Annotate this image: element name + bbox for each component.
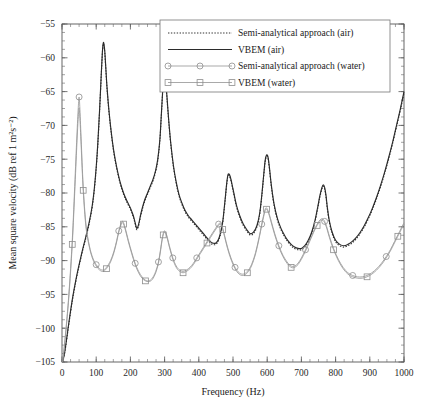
legend-item-label: Semi-analytical approach (water) [238, 61, 365, 72]
x-tick-label: 800 [328, 368, 343, 378]
y-tick-label: −100 [35, 324, 55, 334]
legend-item-label: Semi-analytical approach (air) [238, 28, 354, 39]
x-tick-label: 600 [260, 368, 275, 378]
x-tick-label: 500 [226, 368, 241, 378]
markers-group [69, 94, 400, 284]
chart-legend: Semi-analytical approach (air)VBEM (air)… [160, 20, 390, 92]
x-axis-title: Frequency (Hz) [201, 386, 264, 398]
legend-item-label: VBEM (air) [238, 45, 284, 56]
y-tick-label: −95 [40, 290, 55, 300]
x-tick-label: 900 [363, 368, 378, 378]
x-tick-label: 400 [192, 368, 207, 378]
y-tick-label: −60 [40, 53, 55, 63]
y-axis-title: Mean square velocity (dB ref 1 m²s⁻²) [7, 116, 19, 269]
legend-item-label: VBEM (water) [238, 78, 295, 89]
y-tick-label: −55 [40, 19, 55, 29]
x-tick-label: 0 [60, 368, 65, 378]
series-line [63, 97, 404, 362]
chart-canvas: 01002003004005006007008009001000−105−100… [0, 0, 430, 416]
y-tick-label: −85 [40, 222, 55, 232]
series-line [63, 108, 404, 362]
x-tick-label: 200 [123, 368, 138, 378]
x-tick-label: 300 [157, 368, 172, 378]
y-tick-label: −80 [40, 188, 55, 198]
y-tick-label: −105 [35, 357, 55, 367]
x-tick-label: 100 [89, 368, 104, 378]
y-tick-label: −70 [40, 121, 55, 131]
y-tick-label: −90 [40, 256, 55, 266]
y-tick-label: −65 [40, 87, 55, 97]
x-tick-label: 1000 [395, 368, 414, 378]
figure-container: 01002003004005006007008009001000−105−100… [0, 0, 430, 416]
y-tick-label: −75 [40, 155, 55, 165]
x-tick-label: 700 [294, 368, 309, 378]
